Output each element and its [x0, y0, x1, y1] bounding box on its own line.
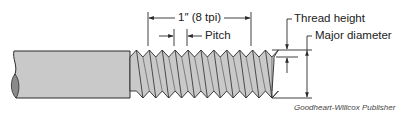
thread-height-label: Thread height [294, 13, 365, 25]
pitch-dimension [159, 29, 202, 46]
pitch-label: Pitch [205, 30, 231, 42]
rod-shank [11, 51, 130, 98]
length-label: 1″ (8 tpi) [178, 12, 221, 24]
publisher-credit: Goodheart-Willcox Publisher [294, 104, 395, 112]
rod-threads [130, 50, 278, 98]
major-diameter-label: Major diameter [315, 30, 392, 42]
thread-height-dimension [272, 19, 312, 73]
major-diameter-dimension [272, 36, 312, 98]
